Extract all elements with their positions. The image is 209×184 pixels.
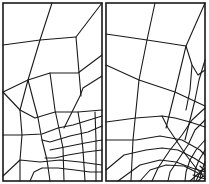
mesh-line [20, 110, 22, 181]
mesh-figure [0, 0, 209, 184]
mesh-line [186, 65, 192, 110]
left-mesh [3, 3, 102, 181]
mesh-line [28, 80, 50, 181]
mesh-line [42, 126, 102, 142]
right-mesh [106, 3, 205, 181]
mesh-line [76, 3, 102, 96]
mesh-line [131, 3, 155, 181]
mesh-line [106, 136, 205, 155]
mesh-line [45, 150, 102, 158]
mesh-line [166, 46, 186, 128]
mesh-line [20, 3, 52, 110]
mesh-line [50, 140, 102, 150]
mesh-canvas [0, 0, 209, 184]
mesh-line [95, 112, 96, 181]
mesh-line [3, 55, 102, 92]
mesh-line [3, 92, 102, 118]
mesh-line [186, 3, 205, 75]
mesh-line [30, 168, 102, 181]
mesh-line [64, 76, 102, 128]
